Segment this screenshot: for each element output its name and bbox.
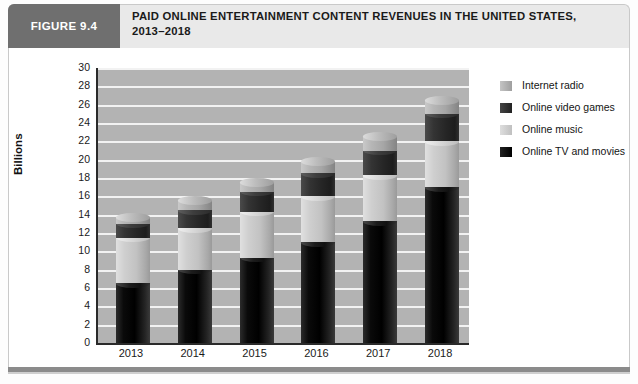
- y-axis-tick-label: 18: [64, 171, 90, 183]
- y-axis-tick-label: 20: [64, 153, 90, 165]
- segment-body: [301, 242, 335, 343]
- x-axis-tick-labels: 201320142015201620172018: [96, 347, 467, 365]
- gridline: [98, 68, 469, 70]
- legend-swatch-tv: [500, 147, 512, 157]
- segment-body: [363, 221, 397, 343]
- bar-segment-tv: [240, 258, 274, 343]
- segment-body: [116, 238, 150, 284]
- legend-item-games: Online video games: [500, 100, 632, 117]
- legend-swatch-music: [500, 125, 512, 135]
- y-axis-tick-label: 22: [64, 134, 90, 146]
- y-axis-tick-labels: 302826242220181614121086420: [62, 68, 90, 343]
- y-axis-tick-label: 6: [64, 281, 90, 293]
- bar-2016: [301, 162, 335, 344]
- x-axis-tick-label: 2014: [167, 347, 219, 359]
- gridline: [98, 123, 469, 125]
- gridline: [98, 141, 469, 143]
- figure-card: FIGURE 9.4 PAID ONLINE ENTERTAINMENT CON…: [0, 0, 638, 384]
- figure-title: PAID ONLINE ENTERTAINMENT CONTENT REVENU…: [132, 9, 612, 39]
- bar-segment-music: [240, 212, 274, 258]
- legend-label: Internet radio: [522, 79, 584, 91]
- legend-label: Online music: [522, 123, 583, 135]
- gridline: [98, 86, 469, 88]
- bar-2015: [240, 183, 274, 343]
- bar-segment-games: [116, 224, 150, 238]
- gridline: [98, 233, 469, 235]
- bar-segment-radio: [116, 217, 150, 223]
- segment-body: [178, 228, 212, 269]
- figure-number-label: FIGURE 9.4: [31, 20, 98, 32]
- bar-segment-games: [363, 151, 397, 176]
- chart-legend: Internet radioOnline video gamesOnline m…: [500, 78, 632, 166]
- figure-bottom-rule-shadow: [8, 372, 630, 374]
- bar-segment-music: [301, 196, 335, 242]
- figure-number-tab: FIGURE 9.4: [8, 4, 120, 48]
- x-axis-tick-label: 2016: [290, 347, 342, 359]
- gridline: [98, 251, 469, 253]
- cylinder-cap: [116, 213, 150, 222]
- legend-item-radio: Internet radio: [500, 78, 632, 95]
- y-axis-tick-label: 16: [64, 189, 90, 201]
- legend-item-tv: Online TV and movies: [500, 144, 632, 161]
- segment-body: [116, 283, 150, 343]
- bar-segment-tv: [116, 283, 150, 343]
- segment-body: [425, 141, 459, 187]
- gridline: [98, 325, 469, 327]
- cylinder-cap: [425, 96, 459, 105]
- y-axis-tick-label: 26: [64, 98, 90, 110]
- bar-segment-music: [116, 238, 150, 284]
- bar-segment-music: [425, 141, 459, 187]
- segment-body: [301, 196, 335, 242]
- y-axis-tick-label: 28: [64, 79, 90, 91]
- bar-2018: [425, 100, 459, 343]
- gridline: [98, 306, 469, 308]
- bar-segment-music: [363, 175, 397, 221]
- legend-swatch-radio: [500, 81, 512, 91]
- bar-segment-radio: [425, 100, 459, 114]
- bar-segment-games: [301, 173, 335, 196]
- x-axis-tick-label: 2017: [352, 347, 404, 359]
- bar-segment-tv: [363, 221, 397, 343]
- y-axis-tick-label: 0: [64, 336, 90, 348]
- x-axis-tick-label: 2018: [414, 347, 466, 359]
- segment-body: [240, 212, 274, 258]
- bar-segment-games: [425, 114, 459, 142]
- y-axis-tick-label: 2: [64, 318, 90, 330]
- bar-segment-tv: [425, 187, 459, 343]
- legend-label: Online video games: [522, 101, 615, 113]
- bar-segment-tv: [301, 242, 335, 343]
- legend-item-music: Online music: [500, 122, 632, 139]
- bar-segment-radio: [240, 183, 274, 192]
- gridline: [98, 215, 469, 217]
- segment-body: [240, 258, 274, 343]
- segment-body: [363, 175, 397, 221]
- bar-segment-games: [178, 210, 212, 228]
- y-axis-tick-label: 30: [64, 61, 90, 73]
- segment-body: [425, 187, 459, 343]
- gridline: [98, 160, 469, 162]
- x-axis-tick-label: 2015: [229, 347, 281, 359]
- y-axis-tick-label: 12: [64, 226, 90, 238]
- bar-segment-music: [178, 228, 212, 269]
- y-axis-tick-label: 4: [64, 299, 90, 311]
- y-axis-title: Billions: [12, 133, 24, 175]
- plot-area: [96, 68, 469, 345]
- y-axis-tick-label: 8: [64, 263, 90, 275]
- bar-2014: [178, 201, 212, 343]
- segment-body: [178, 270, 212, 343]
- gridline: [98, 196, 469, 198]
- bar-segment-radio: [178, 201, 212, 210]
- bar-segment-games: [240, 192, 274, 212]
- cylinder-cap: [240, 178, 274, 187]
- bar-2013: [116, 217, 150, 343]
- bar-segment-radio: [301, 162, 335, 174]
- gridline: [98, 105, 469, 107]
- gridline: [98, 270, 469, 272]
- x-axis-tick-label: 2013: [105, 347, 157, 359]
- legend-label: Online TV and movies: [522, 145, 625, 157]
- bar-segment-radio: [363, 137, 397, 151]
- y-axis-tick-label: 24: [64, 116, 90, 128]
- legend-swatch-games: [500, 103, 512, 113]
- bar-2017: [363, 137, 397, 343]
- bar-segment-tv: [178, 270, 212, 343]
